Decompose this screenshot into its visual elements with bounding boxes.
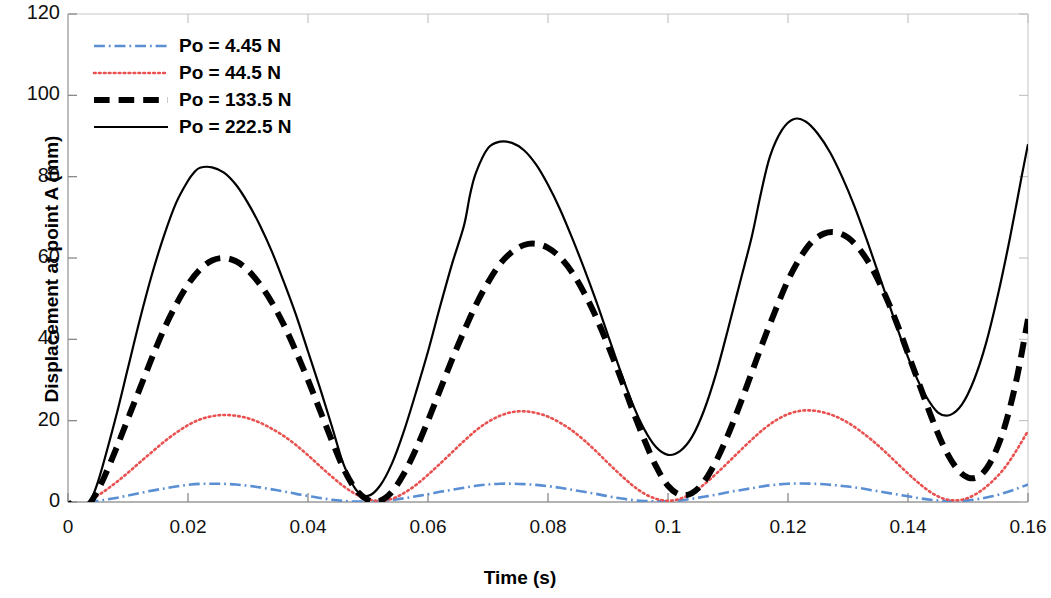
- legend-item: Po = 44.5 N: [92, 59, 342, 86]
- x-tick-label: 0.08: [508, 516, 588, 538]
- data-series-layer: [68, 118, 1028, 511]
- legend-item: Po = 133.5 N: [92, 86, 342, 113]
- legend-label: Po = 44.5 N: [179, 62, 281, 84]
- legend-line-swatch: [92, 36, 170, 56]
- legend-line-swatch: [92, 63, 170, 83]
- legend-line-swatch: [92, 117, 170, 137]
- x-tick-label: 0.04: [268, 516, 348, 538]
- legend-label: Po = 133.5 N: [179, 89, 291, 111]
- chart-legend: Po = 4.45 NPo = 44.5 NPo = 133.5 NPo = 2…: [92, 32, 342, 140]
- x-tick-label: 0.1: [628, 516, 708, 538]
- legend-item: Po = 222.5 N: [92, 113, 342, 140]
- x-axis-label: Time (s): [0, 567, 1040, 589]
- y-tick-label: 120: [4, 1, 60, 24]
- series-line-3: [68, 118, 1028, 511]
- series-line-2: [68, 232, 1028, 510]
- legend-line-swatch: [92, 90, 170, 110]
- x-tick-label: 0.02: [148, 516, 228, 538]
- y-tick-label: 0: [4, 489, 60, 512]
- x-tick-label: 0.12: [748, 516, 828, 538]
- x-tick-label: 0.06: [388, 516, 468, 538]
- y-axis-label: Displacement at point A (mm): [41, 119, 63, 419]
- x-tick-label: 0.14: [868, 516, 948, 538]
- legend-item: Po = 4.45 N: [92, 32, 342, 59]
- x-tick-label: 0.16: [988, 516, 1051, 538]
- y-tick-label: 100: [4, 82, 60, 105]
- legend-label: Po = 222.5 N: [179, 116, 291, 138]
- x-tick-label: 0: [28, 516, 108, 538]
- legend-label: Po = 4.45 N: [179, 35, 281, 57]
